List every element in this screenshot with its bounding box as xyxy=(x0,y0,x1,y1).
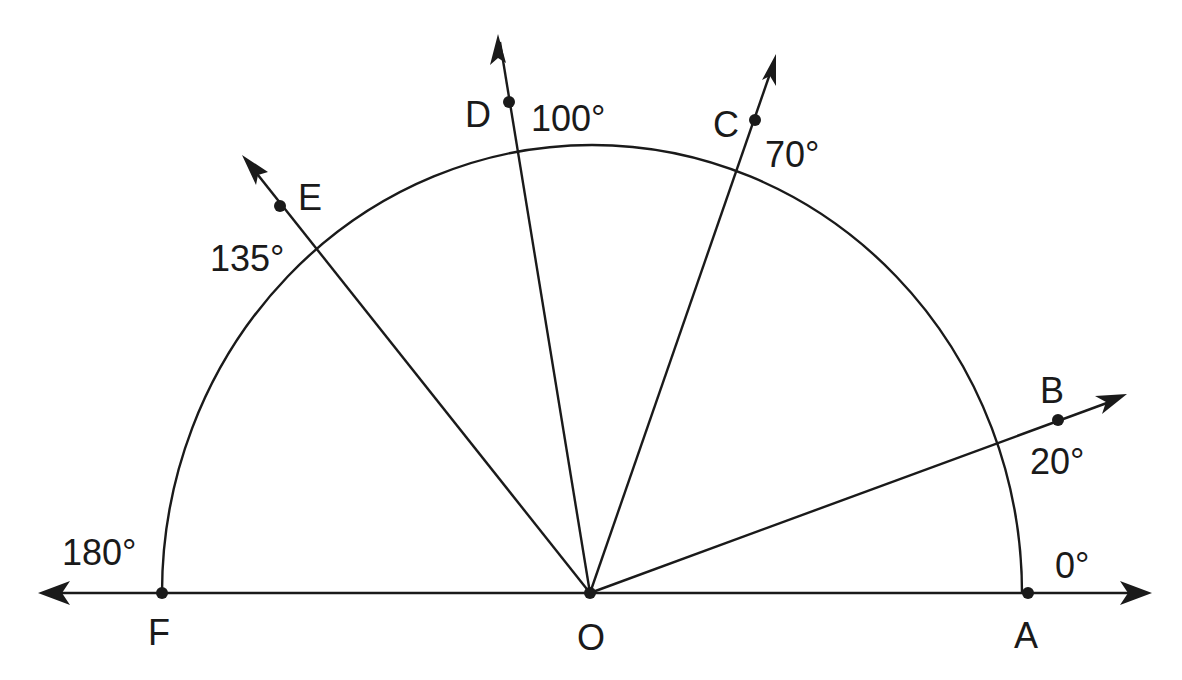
arrow-b-icon xyxy=(1095,394,1127,414)
label-e: E xyxy=(298,177,322,218)
angle-label-180: 180° xyxy=(62,532,136,573)
angle-label-100: 100° xyxy=(531,98,605,139)
label-o: O xyxy=(577,617,605,658)
arrow-e-icon xyxy=(242,155,268,185)
angle-label-135: 135° xyxy=(210,238,284,279)
ray-ob xyxy=(590,400,1115,593)
point-c xyxy=(749,114,761,126)
ray-oc xyxy=(590,65,773,593)
protractor-arc xyxy=(162,145,1022,593)
arrow-d-icon xyxy=(490,34,506,65)
point-b xyxy=(1052,414,1064,426)
point-e xyxy=(274,200,286,212)
label-c: C xyxy=(713,104,739,145)
point-d xyxy=(503,96,515,108)
arrow-c-icon xyxy=(762,54,776,86)
point-a xyxy=(1022,587,1034,599)
point-f xyxy=(156,587,168,599)
label-d: D xyxy=(465,94,491,135)
label-b: B xyxy=(1040,370,1064,411)
angle-label-20: 20° xyxy=(1030,441,1084,482)
angle-label-0: 0° xyxy=(1055,545,1089,586)
protractor-diagram: O A B C D E F 0° 20° 70° 100° 135° 180° xyxy=(0,0,1182,680)
ray-oe xyxy=(250,165,590,593)
label-f: F xyxy=(148,612,170,653)
angle-label-70: 70° xyxy=(765,134,819,175)
label-a: A xyxy=(1014,615,1038,656)
point-o xyxy=(584,587,596,599)
